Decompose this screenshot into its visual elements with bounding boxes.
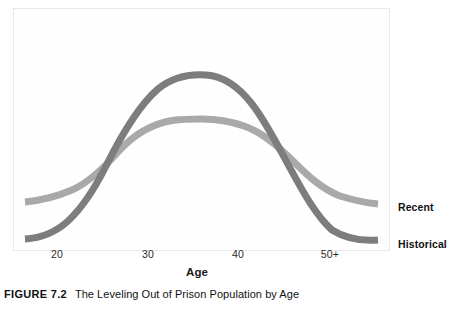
series-label-historical: Historical bbox=[398, 238, 447, 250]
x-tick-label-50plus: 50+ bbox=[321, 248, 339, 260]
series-label-recent: Recent bbox=[398, 201, 434, 213]
x-tick-label-30: 30 bbox=[142, 248, 154, 260]
figure-caption-text: The Leveling Out of Prison Population by… bbox=[75, 288, 299, 300]
plot-area-frame bbox=[13, 8, 390, 251]
figure-caption: FIGURE 7.2The Leveling Out of Prison Pop… bbox=[4, 288, 299, 300]
figure-container: 20 30 40 50+ Age Recent Historical FIGUR… bbox=[0, 0, 470, 310]
x-tick-label-20: 20 bbox=[51, 248, 63, 260]
x-axis-title: Age bbox=[186, 266, 208, 278]
x-tick-label-40: 40 bbox=[232, 248, 244, 260]
figure-caption-label: FIGURE 7.2 bbox=[4, 288, 67, 300]
